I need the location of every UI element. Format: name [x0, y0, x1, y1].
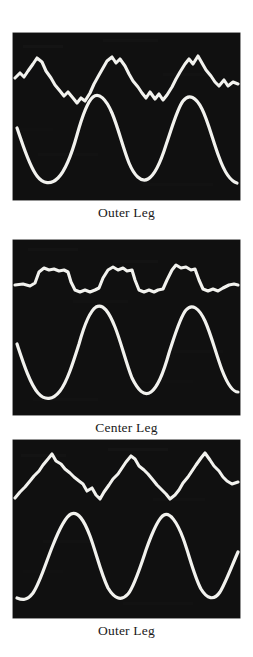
oscilloscope-figure: Outer Leg Center Leg [0, 0, 253, 657]
scope-screen-2 [13, 240, 240, 415]
screen-noise-2 [13, 240, 240, 415]
panel-caption-2: Center Leg [0, 420, 253, 436]
panel-caption-1: Outer Leg [0, 205, 253, 221]
screen-noise-3 [13, 440, 240, 618]
scope-traces-1 [13, 33, 240, 200]
scope-traces-2 [13, 240, 240, 415]
scope-screen-3 [13, 440, 240, 618]
scope-screen-1 [13, 33, 240, 200]
panel-caption-3: Outer Leg [0, 623, 253, 639]
scope-traces-3 [13, 440, 240, 618]
